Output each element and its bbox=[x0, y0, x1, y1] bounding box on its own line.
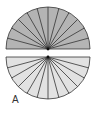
center-point bbox=[47, 56, 50, 59]
top-semicircle bbox=[6, 7, 90, 50]
bottom-semicircle bbox=[6, 56, 90, 99]
center-point bbox=[47, 48, 50, 51]
figure-label: A bbox=[12, 95, 19, 105]
